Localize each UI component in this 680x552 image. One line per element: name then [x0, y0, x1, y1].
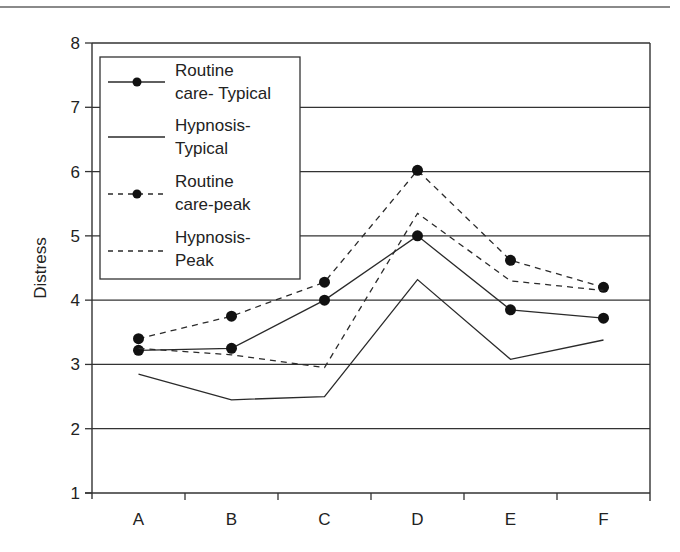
- legend-label: Peak: [175, 251, 214, 270]
- x-tick-label: E: [505, 510, 516, 529]
- data-point-marker: [598, 313, 609, 324]
- legend-label: Typical: [175, 139, 228, 158]
- legend-marker-dot-icon: [133, 78, 142, 87]
- legend-label: Hypnosis-: [175, 228, 251, 247]
- x-tick-label: D: [411, 510, 423, 529]
- y-tick-label: 2: [71, 420, 80, 439]
- data-point-marker: [598, 282, 609, 293]
- y-tick-label: 7: [71, 98, 80, 117]
- data-point-marker: [226, 311, 237, 322]
- legend-label: Routine: [175, 61, 234, 80]
- distress-line-chart: 12345678 ABCDEF Distress Routine care- T…: [0, 0, 680, 552]
- y-tick-label: 6: [71, 163, 80, 182]
- y-tick-label: 5: [71, 227, 80, 246]
- data-point-marker: [133, 333, 144, 344]
- x-tick-label: C: [318, 510, 330, 529]
- legend-label: Routine: [175, 172, 234, 191]
- legend: Routine care- Typical Hypnosis- Typical …: [100, 57, 300, 279]
- y-axis-title: Distress: [31, 237, 50, 298]
- x-tick-label: A: [133, 510, 145, 529]
- legend-label: care-peak: [175, 195, 251, 214]
- legend-label: care- Typical: [175, 84, 271, 103]
- series-line: [139, 280, 604, 400]
- data-point-marker: [505, 304, 516, 315]
- legend-label: Hypnosis-: [175, 116, 251, 135]
- y-tick-label: 1: [71, 484, 80, 503]
- x-tick-labels: ABCDEF: [133, 510, 609, 529]
- data-point-marker: [412, 230, 423, 241]
- legend-marker-dot-icon: [133, 190, 142, 199]
- x-tick-label: B: [226, 510, 237, 529]
- y-tick-label: 4: [71, 291, 80, 310]
- data-point-marker: [133, 345, 144, 356]
- data-point-marker: [505, 255, 516, 266]
- y-tick-label: 8: [71, 34, 80, 53]
- data-point-marker: [319, 277, 330, 288]
- x-tick-label: F: [598, 510, 608, 529]
- data-point-marker: [412, 165, 423, 176]
- data-point-marker: [226, 343, 237, 354]
- y-tick-labels: 12345678: [71, 34, 80, 503]
- y-tick-label: 3: [71, 355, 80, 374]
- data-point-marker: [319, 295, 330, 306]
